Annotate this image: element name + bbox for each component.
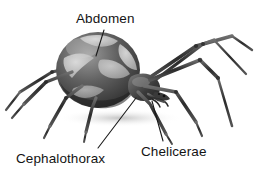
leg-right-3-tip: [166, 134, 172, 144]
leg-right-5-tip: [218, 78, 232, 126]
spider-anatomy-figure: Abdomen Cephalothorax Chelicerae: [0, 0, 261, 178]
leg-right-1: [146, 36, 232, 80]
label-cephalothorax: Cephalothorax: [16, 152, 105, 166]
leg-left-1-tip: [6, 92, 20, 110]
leg-left-2-tip: [12, 104, 24, 118]
leg-left-3-tip: [44, 126, 50, 138]
label-abdomen: Abdomen: [76, 12, 135, 26]
leg-right-1-tip: [232, 36, 252, 50]
ground-shadow: [58, 109, 182, 127]
leg-left-4-tip: [84, 132, 86, 142]
chelicerae: [152, 92, 170, 107]
label-chelicerae: Chelicerae: [141, 145, 207, 159]
leg-right-4-tip: [196, 122, 202, 136]
abdomen-highlight: [66, 38, 98, 58]
leg-right-2-tip: [214, 40, 246, 74]
